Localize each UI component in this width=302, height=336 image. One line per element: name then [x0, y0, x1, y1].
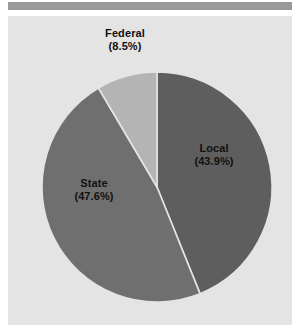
pie-chart-graphic: [8, 16, 292, 325]
pie-chart-panel: Federal (8.5%) Local (43.9%) State (47.6…: [8, 16, 292, 325]
top-divider-rule: [8, 2, 292, 10]
